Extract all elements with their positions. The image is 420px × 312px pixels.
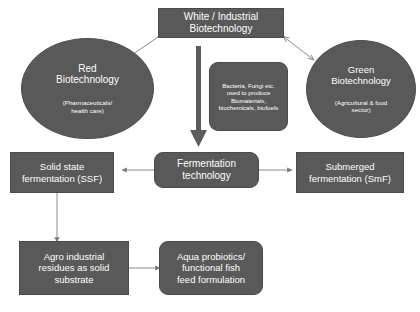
node-red-biotechnology[interactable]: Red Biotechnology (Pharmaceuticals/ heal… [21, 38, 154, 139]
node-red-biotechnology-sublabel: (Pharmaceuticals/ health care) [26, 99, 149, 115]
node-agro-industrial-residues[interactable]: Agro industrial residues as solid substr… [19, 241, 129, 295]
node-submerged-fermentation[interactable]: Submerged fermentation (SmF) [296, 152, 404, 193]
node-red-biotechnology-label: Red Biotechnology [26, 63, 149, 87]
node-submerged-fermentation-label: Submerged fermentation (SmF) [301, 161, 399, 183]
node-aqua-probiotics[interactable]: Aqua probiotics/ functional fish feed fo… [159, 241, 263, 295]
node-fermentation-technology[interactable]: Fermentation technology [154, 152, 259, 188]
node-agro-industrial-residues-label: Agro industrial residues as solid substr… [24, 251, 124, 285]
node-aqua-probiotics-label: Aqua probiotics/ functional fish feed fo… [164, 251, 258, 285]
node-microbes-products[interactable]: Bacteria, Fungi etc. used to produce Bio… [209, 62, 288, 131]
connector-white-to-green [284, 37, 314, 60]
diagram-canvas: White / Industrial Biotechnology Red Bio… [0, 0, 420, 312]
node-green-biotechnology[interactable]: Green Biotechnology (Agricultural & food… [306, 40, 416, 138]
node-solid-state-fermentation-label: Solid state fermentation (SSF) [15, 161, 109, 183]
node-green-biotechnology-label: Green Biotechnology [311, 64, 411, 86]
connector-white-to-fermentation [190, 46, 207, 147]
node-microbes-products-label: Bacteria, Fungi etc. used to produce Bio… [214, 82, 283, 111]
node-green-biotechnology-sublabel: (Agricultural & food sector) [311, 99, 411, 115]
node-fermentation-technology-label: Fermentation technology [159, 158, 254, 182]
node-white-industrial-biotechnology[interactable]: White / Industrial Biotechnology [158, 8, 284, 38]
node-solid-state-fermentation[interactable]: Solid state fermentation (SSF) [10, 152, 114, 193]
node-white-industrial-label: White / Industrial Biotechnology [163, 11, 279, 35]
